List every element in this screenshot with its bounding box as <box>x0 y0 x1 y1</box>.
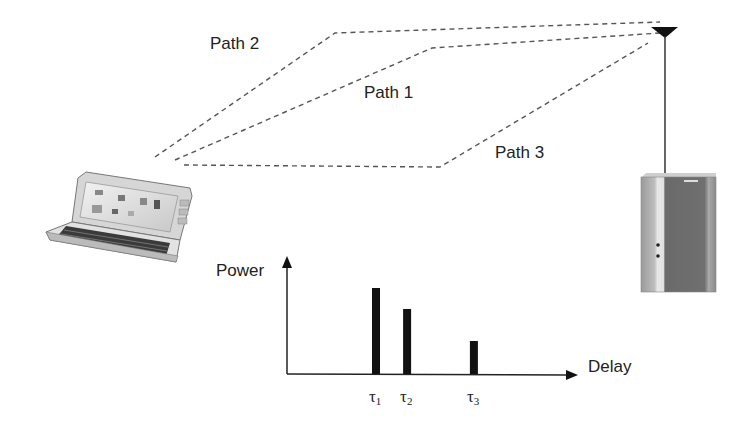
x-axis-arrow <box>566 370 578 380</box>
y-axis-arrow <box>282 256 292 268</box>
multipath-diagram: Path 2 Path 1 Path 3 <box>0 0 748 429</box>
bar-τ2 <box>403 309 411 374</box>
x-axis-label: Delay <box>588 357 632 376</box>
x-axis <box>287 374 568 375</box>
bars <box>372 288 478 374</box>
path-3-line <box>184 43 648 167</box>
bar-τ3 <box>470 341 478 374</box>
base-station-icon <box>641 173 716 292</box>
path-3-label: Path 3 <box>495 143 544 162</box>
path-2-label: Path 2 <box>210 34 259 53</box>
tick-label-τ1: τ1 <box>369 387 381 407</box>
tick-label-τ3: τ3 <box>467 387 480 407</box>
y-axis-label: Power <box>216 261 265 280</box>
antenna-icon <box>651 27 678 176</box>
tick-labels: τ1τ2τ3 <box>369 387 480 407</box>
laptop-icon <box>46 172 192 262</box>
path-1-label: Path 1 <box>364 83 413 102</box>
bar-τ1 <box>372 288 380 374</box>
tick-label-τ2: τ2 <box>400 387 412 407</box>
power-delay-chart: Power Delay τ1τ2τ3 <box>216 256 632 407</box>
